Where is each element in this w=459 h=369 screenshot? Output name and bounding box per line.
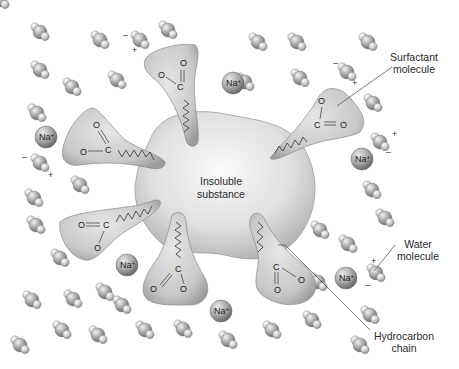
- surfactant-upper-left: O O C: [62, 108, 165, 169]
- svg-text:O: O: [180, 284, 187, 294]
- svg-text:+: +: [48, 170, 53, 180]
- micelle-diagram: Insoluble substance O O C O O C: [0, 0, 459, 369]
- surfactant-label-line2: molecule: [393, 63, 435, 75]
- sodium-ion: Na+: [116, 254, 138, 276]
- svg-text:O: O: [318, 96, 325, 106]
- svg-text:C: C: [314, 120, 321, 130]
- surfactant-lower-left: O C O: [60, 200, 161, 260]
- svg-text:O: O: [274, 285, 281, 295]
- svg-text:–: –: [365, 280, 370, 290]
- svg-text:C: C: [177, 82, 184, 92]
- svg-text:C: C: [273, 262, 280, 272]
- svg-text:O: O: [93, 120, 100, 130]
- surfactant-label-line1: Surfactant: [390, 51, 438, 63]
- water-label-line2: molecule: [397, 250, 439, 262]
- svg-text:O: O: [150, 284, 157, 294]
- svg-text:+: +: [352, 78, 357, 88]
- sodium-ion: Na+: [335, 267, 357, 289]
- water-label-line1: Water: [404, 238, 432, 250]
- sodium-ion: Na+: [351, 148, 373, 170]
- svg-text:O: O: [340, 120, 347, 130]
- diagram-canvas: Insoluble substance O O C O O C: [0, 0, 459, 369]
- svg-text:O: O: [94, 243, 101, 253]
- sodium-ion: Na+: [210, 300, 232, 322]
- svg-text:O: O: [180, 58, 187, 68]
- svg-text:C: C: [105, 145, 112, 155]
- svg-text:C: C: [103, 220, 110, 230]
- svg-text:+: +: [132, 45, 137, 55]
- svg-text:–: –: [333, 58, 338, 68]
- sodium-ion: Na+: [222, 72, 244, 94]
- insoluble-label-line1: Insoluble: [200, 175, 242, 187]
- hydrocarbon-label-line1: Hydrocarbon: [374, 330, 434, 342]
- svg-text:O: O: [78, 220, 85, 230]
- svg-text:–: –: [386, 147, 391, 157]
- insoluble-label-line2: substance: [197, 188, 245, 200]
- hydrocarbon-label-line2: chain: [391, 342, 416, 354]
- svg-text:+: +: [371, 256, 376, 266]
- svg-text:O: O: [80, 147, 87, 157]
- svg-text:O: O: [158, 70, 165, 80]
- svg-text:O: O: [298, 275, 305, 285]
- surfactant-right: O C O: [270, 88, 364, 159]
- svg-text:–: –: [123, 30, 128, 40]
- svg-text:+: +: [392, 129, 397, 139]
- sodium-ion: Na+: [35, 126, 57, 148]
- svg-text:C: C: [175, 264, 182, 274]
- svg-text:–: –: [22, 152, 27, 162]
